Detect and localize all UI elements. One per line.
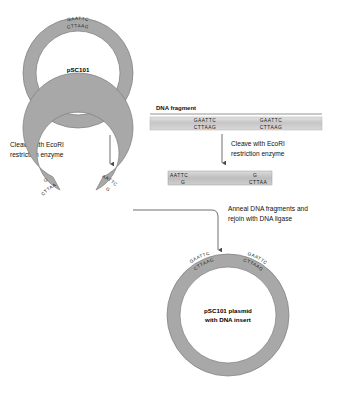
dna-fragment-bar bbox=[150, 117, 322, 130]
cut-fragment-left-bottom: G bbox=[181, 180, 185, 185]
cut-fragment-right-bottom: CTTAA bbox=[249, 180, 267, 185]
plasmid-top-label-line1: pSC101 bbox=[67, 66, 90, 73]
plasmid-recombinant-label-line2: with DNA insert bbox=[204, 316, 251, 323]
dna-fragment-site-right-top: GAATTC bbox=[260, 118, 282, 123]
anneal-caption-line1: Anneal DNA fragments and bbox=[228, 205, 308, 213]
cut-fragment: AATTC G G CTTAA bbox=[168, 171, 272, 185]
dna-fragment-site-left-bottom: CTTAAG bbox=[194, 125, 216, 130]
plasmid-recombinant-inner-hole bbox=[180, 267, 276, 363]
dna-fragment-site-left-top: GAATTC bbox=[194, 118, 216, 123]
diagram-canvas: GAATTC CTTAAG pSC101 plasmid Cleave with… bbox=[0, 0, 339, 398]
cleave-fragment-caption-line2: restriction enzyme bbox=[231, 150, 285, 158]
plasmid-recombinant-label-line1: pSC101 plasmid bbox=[204, 307, 252, 314]
cut-fragment-right-top: G bbox=[253, 173, 257, 178]
cut-fragment-left-top: AATTC bbox=[170, 173, 188, 178]
dna-fragment-site-right-bottom: CTTAAG bbox=[260, 125, 282, 130]
cleave-fragment-caption-line1: Cleave with EcoRI bbox=[231, 140, 285, 147]
anneal-caption-line2: rejoin with DNA ligase bbox=[228, 215, 292, 223]
dna-fragment-label: DNA fragment bbox=[156, 105, 196, 111]
